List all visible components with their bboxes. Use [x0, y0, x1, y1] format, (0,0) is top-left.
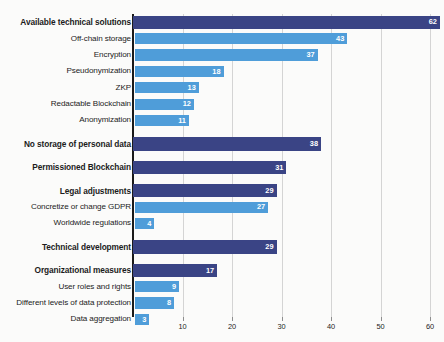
bar-row-label: Encryption: [0, 51, 131, 59]
bar-row[interactable]: Pseudonymization18: [0, 63, 444, 79]
bar-row-label: Available technical solutions: [0, 18, 131, 26]
bar-row-label: No storage of personal data: [0, 140, 131, 148]
bar-value-label: 17: [206, 267, 214, 274]
bar-container: 4: [133, 215, 154, 231]
x-tick-10: [183, 317, 184, 321]
bar-row-label: Data aggregation: [0, 315, 131, 323]
bar-row-label: Organizational measures: [0, 266, 131, 274]
bar-container: 11: [133, 112, 189, 128]
bar-value-label: 29: [265, 187, 273, 194]
bar[interactable]: 11: [135, 115, 189, 126]
bar-row[interactable]: Off-chain storage43: [0, 30, 444, 46]
bar-value-label: 4: [147, 220, 151, 227]
bar-container: 29: [133, 183, 277, 199]
bar-row-label: Technical development: [0, 243, 131, 251]
bar[interactable]: 13: [135, 82, 199, 93]
bar-container: 18: [133, 63, 224, 79]
bar-row-label: Redactable Blockchain: [0, 100, 131, 108]
bar-value-label: 9: [172, 283, 176, 290]
bar-container: 9: [133, 278, 179, 294]
x-tick-20: [232, 317, 233, 321]
row-spacer: [0, 129, 444, 136]
bar[interactable]: 43: [135, 33, 348, 44]
bar-container: 12: [133, 96, 194, 112]
bar[interactable]: 27: [135, 202, 269, 213]
bar-container: 43: [133, 30, 347, 46]
bar-row-label: Different levels of data protection: [0, 299, 131, 307]
bar-row-label: Concretize or change GDPR: [0, 203, 131, 211]
bar-rows: Available technical solutions62Off-chain…: [0, 14, 444, 328]
row-spacer: [0, 176, 444, 183]
x-tick-60: [430, 317, 431, 321]
bar-row-label: Anonymization: [0, 116, 131, 124]
bar[interactable]: 9: [135, 281, 180, 292]
row-spacer: [0, 232, 444, 239]
bar-row[interactable]: Permissioned Blockchain31: [0, 159, 444, 175]
bar-value-label: 37: [306, 51, 314, 58]
bar-row-label: Worldwide regulations: [0, 219, 131, 227]
bar-row-label: Legal adjustments: [0, 187, 131, 195]
bar-row[interactable]: Concretize or change GDPR27: [0, 199, 444, 215]
bar-row[interactable]: Encryption37: [0, 47, 444, 63]
bar-container: 38: [133, 136, 321, 152]
bar-row-label: Permissioned Blockchain: [0, 163, 131, 171]
bar-row-label: Pseudonymization: [0, 67, 131, 75]
x-axis: 102030405060: [133, 317, 438, 337]
bar-container: 13: [133, 80, 199, 96]
bar[interactable]: 17: [133, 264, 217, 277]
x-tick-30: [282, 317, 283, 321]
bar-value-label: 38: [310, 140, 318, 147]
bar-row[interactable]: Technical development29: [0, 239, 444, 255]
bar-container: 37: [133, 47, 318, 63]
bar-value-label: 8: [167, 299, 171, 306]
bar-row-label: User roles and rights: [0, 283, 131, 291]
bar-row[interactable]: Legal adjustments29: [0, 183, 444, 199]
bar[interactable]: 12: [135, 99, 194, 110]
bar-row-label: ZKP: [0, 84, 131, 92]
x-tick-40: [331, 317, 332, 321]
bar[interactable]: 8: [135, 297, 175, 308]
bar-value-label: 29: [265, 243, 273, 250]
bar-value-label: 13: [188, 84, 196, 91]
bar-row[interactable]: Organizational measures17: [0, 262, 444, 278]
bar[interactable]: 4: [135, 218, 155, 229]
x-tick-label-20: 20: [228, 323, 236, 330]
row-spacer: [0, 255, 444, 262]
bar[interactable]: 38: [133, 137, 321, 150]
bar-value-label: 31: [275, 164, 283, 171]
bar-value-label: 12: [183, 100, 191, 107]
bar-row[interactable]: No storage of personal data38: [0, 136, 444, 152]
bar[interactable]: 62: [133, 16, 440, 29]
bar[interactable]: 18: [135, 66, 224, 77]
x-tick-label-50: 50: [376, 323, 384, 330]
bar-container: 29: [133, 239, 277, 255]
bar-row[interactable]: Available technical solutions62: [0, 14, 444, 30]
bar-container: 17: [133, 262, 217, 278]
bar-row[interactable]: Anonymization11: [0, 112, 444, 128]
bar[interactable]: 31: [133, 161, 286, 174]
bar[interactable]: 29: [133, 240, 277, 253]
x-tick-label-60: 60: [426, 323, 434, 330]
bar-row[interactable]: ZKP13: [0, 80, 444, 96]
bar-row[interactable]: User roles and rights9: [0, 278, 444, 294]
bar-container: 27: [133, 199, 268, 215]
row-spacer: [0, 152, 444, 159]
bar[interactable]: 37: [135, 49, 318, 60]
bar-row[interactable]: Different levels of data protection8: [0, 295, 444, 311]
bar-row[interactable]: Redactable Blockchain12: [0, 96, 444, 112]
bar-container: 8: [133, 295, 174, 311]
bar-value-label: 11: [178, 117, 186, 124]
bar-value-label: 43: [336, 35, 344, 42]
x-tick-label-10: 10: [178, 323, 186, 330]
x-tick-label-30: 30: [277, 323, 285, 330]
bar-value-label: 18: [212, 68, 220, 75]
bar-row-label: Off-chain storage: [0, 35, 131, 43]
x-tick-50: [381, 317, 382, 321]
x-tick-label-40: 40: [327, 323, 335, 330]
bar[interactable]: 29: [133, 184, 277, 197]
bar-value-label: 27: [257, 203, 265, 210]
bar-container: 31: [133, 159, 286, 175]
bar-value-label: 62: [429, 18, 437, 25]
bar-chart: Available technical solutions62Off-chain…: [0, 0, 444, 342]
bar-row[interactable]: Worldwide regulations4: [0, 215, 444, 231]
